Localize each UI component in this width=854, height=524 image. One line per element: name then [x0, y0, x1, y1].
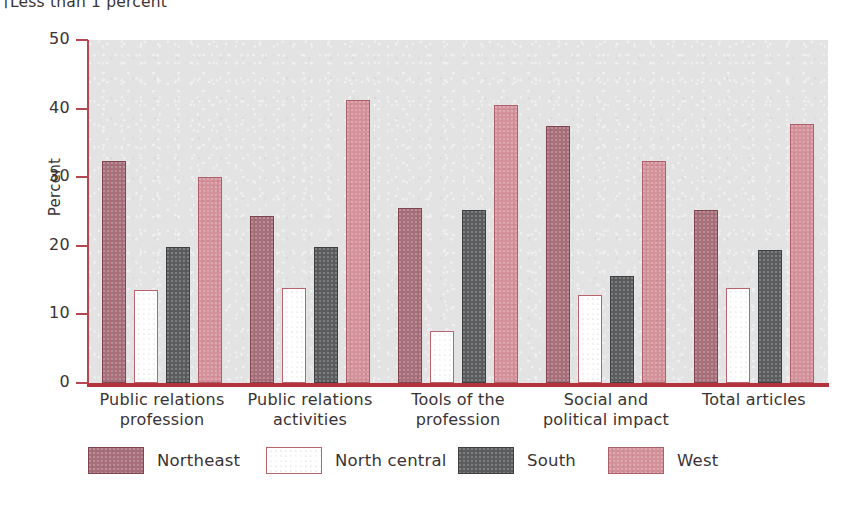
bar-texture [199, 178, 221, 382]
y-axis-line [87, 40, 89, 384]
y-axis-tick-label: 50 [12, 29, 70, 48]
bar-west [494, 105, 518, 383]
y-axis-tick-label: 20 [12, 235, 70, 254]
bar-northeast [250, 216, 274, 383]
x-axis-line [87, 383, 829, 387]
bar-texture [791, 125, 813, 382]
legend-swatch-northcentral [266, 447, 322, 474]
bar-northeast [694, 210, 718, 383]
bar-northcentral [134, 290, 158, 383]
bar-texture [759, 251, 781, 382]
bar-texture [251, 217, 273, 382]
legend-item-south[interactable]: South [458, 447, 576, 474]
y-axis-tick [76, 176, 88, 178]
bar-west [790, 124, 814, 383]
bar-texture [347, 101, 369, 382]
bar-south [610, 276, 634, 383]
bar-south [462, 210, 486, 383]
bar-texture [463, 211, 485, 382]
bar-texture [547, 127, 569, 382]
bar-texture [283, 289, 305, 382]
swatch-texture [609, 448, 663, 473]
bar-south [166, 247, 190, 384]
bar-northeast [398, 208, 422, 383]
bar-texture [727, 289, 749, 382]
chart-figure: †Less than 1 percent Percent 01020304050… [0, 0, 854, 524]
swatch-texture [89, 448, 143, 473]
legend-swatch-northeast [88, 447, 144, 474]
bar-south [758, 250, 782, 383]
swatch-texture [267, 448, 321, 473]
y-axis-tick-label: 40 [12, 98, 70, 117]
y-axis-tick [76, 108, 88, 110]
legend-label: South [527, 451, 576, 470]
legend-label: North central [335, 451, 447, 470]
bar-west [346, 100, 370, 383]
bar-northcentral [430, 331, 454, 383]
y-axis-tick [76, 39, 88, 41]
y-axis-tick [76, 313, 88, 315]
bar-west [198, 177, 222, 383]
legend-swatch-south [458, 447, 514, 474]
legend-label: West [677, 451, 718, 470]
bar-northcentral [578, 295, 602, 383]
bar-texture [315, 248, 337, 382]
chart-footnote: †Less than 1 percent [2, 0, 167, 11]
legend-item-west[interactable]: West [608, 447, 718, 474]
x-axis-category-label: Total articles [666, 390, 842, 410]
category-label-line: political impact [518, 410, 694, 430]
category-label-line: Total articles [666, 390, 842, 410]
bar-west [642, 161, 666, 383]
plot-area [88, 40, 828, 383]
bar-texture [431, 332, 453, 382]
y-axis-tick-label: 30 [12, 166, 70, 185]
bar-texture [495, 106, 517, 382]
swatch-texture [459, 448, 513, 473]
bar-northeast [102, 161, 126, 383]
legend-item-northcentral[interactable]: North central [266, 447, 447, 474]
bar-texture [579, 296, 601, 382]
y-axis-title: Percent [46, 127, 64, 247]
y-axis-tick-label: 0 [12, 372, 70, 391]
bar-northcentral [726, 288, 750, 383]
bar-texture [643, 162, 665, 382]
legend-label: Northeast [157, 451, 240, 470]
legend-item-northeast[interactable]: Northeast [88, 447, 240, 474]
legend-swatch-west [608, 447, 664, 474]
bar-texture [611, 277, 633, 382]
bar-texture [695, 211, 717, 382]
bar-northcentral [282, 288, 306, 383]
y-axis-tick-label: 10 [12, 303, 70, 322]
bar-northeast [546, 126, 570, 383]
bar-texture [167, 248, 189, 383]
bar-texture [135, 291, 157, 382]
y-axis-tick [76, 382, 88, 384]
bar-texture [399, 209, 421, 382]
bar-texture [103, 162, 125, 382]
y-axis-tick [76, 245, 88, 247]
bar-south [314, 247, 338, 383]
